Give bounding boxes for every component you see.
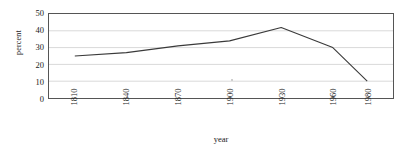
y-axis-tick-label: 50 xyxy=(28,9,44,17)
data-series-group xyxy=(75,27,367,81)
y-axis-tick-label: 0 xyxy=(28,95,44,103)
x-axis-tick-label: 1960 xyxy=(329,89,338,123)
y-axis-tick-label-group: 50403020100 xyxy=(26,0,44,151)
x-axis-tick-label: 1840 xyxy=(121,89,130,123)
x-axis-title: year xyxy=(48,134,394,144)
y-axis-tick-label: 20 xyxy=(28,61,44,69)
x-axis-tick-label: 1980 xyxy=(364,89,373,123)
x-axis-tick-label: 1870 xyxy=(173,89,182,123)
y-axis-tick-label: 10 xyxy=(28,78,44,86)
plot-area xyxy=(48,13,394,99)
x-axis-tick-label-group: 1810184018701900193019601980 xyxy=(48,99,394,133)
line-chart-figure: percent 50403020100 18101840187019001930… xyxy=(0,0,413,151)
y-axis-tick-label: 30 xyxy=(28,43,44,51)
stray-artifact-dot xyxy=(231,79,233,81)
plot-svg xyxy=(49,14,393,98)
y-axis-tick-label: 40 xyxy=(28,26,44,34)
y-axis-title: percent xyxy=(14,13,23,73)
x-axis-tick-label: 1930 xyxy=(277,89,286,123)
data-line xyxy=(75,27,367,81)
x-axis-tick-label: 1810 xyxy=(69,89,78,123)
x-axis-tick-label: 1900 xyxy=(225,89,234,123)
